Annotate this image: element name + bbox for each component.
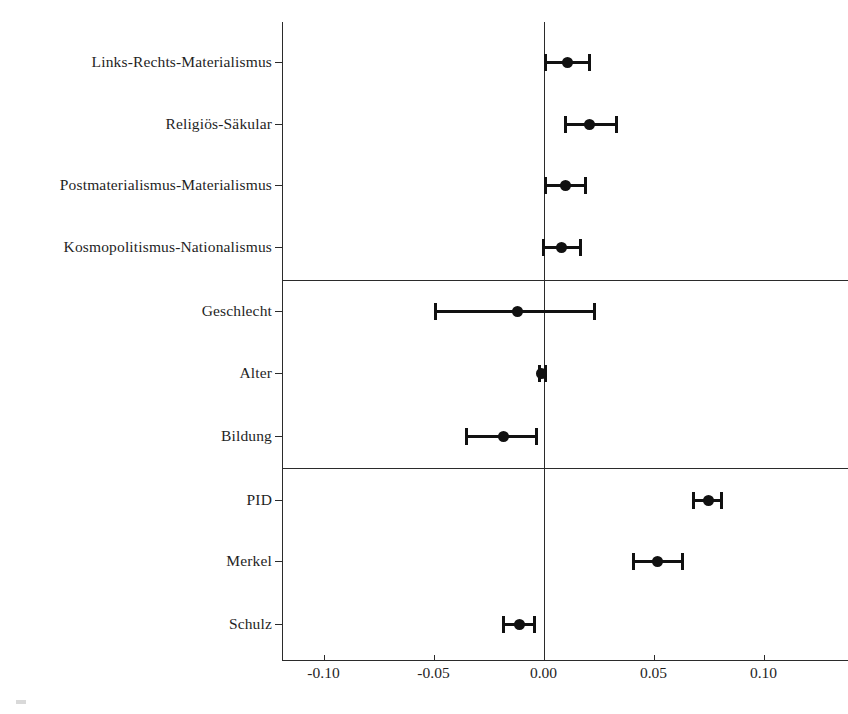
confidence-interval-cap-low	[542, 239, 545, 256]
y-axis-tick-label: Bildung	[221, 428, 272, 444]
confidence-interval-cap-low	[564, 116, 567, 133]
confidence-interval-cap-high	[615, 116, 618, 133]
y-axis-tick-mark	[275, 185, 282, 186]
y-axis-tick-label: Geschlecht	[202, 303, 272, 319]
y-axis-tick-label: Postmaterialismus-Materialismus	[60, 177, 272, 193]
confidence-interval-cap-high	[584, 177, 587, 194]
confidence-interval-cap-low	[544, 54, 547, 71]
x-axis-tick-label: 0.10	[750, 664, 777, 681]
confidence-interval-cap-high	[593, 303, 596, 320]
group-separator-line	[282, 468, 848, 469]
y-axis-tick-label: Links-Rechts-Materialismus	[92, 54, 272, 70]
y-axis-tick-label: PID	[247, 492, 272, 508]
x-axis-tick-mark	[324, 655, 325, 661]
y-axis-tick-label: Religiös-Säkular	[165, 116, 272, 132]
confidence-interval-cap-high	[720, 492, 723, 509]
y-axis-tick-mark	[275, 373, 282, 374]
coefficient-plot-figure: Links-Rechts-MaterialismusReligiös-Säkul…	[0, 0, 848, 714]
x-axis-tick-label: -0.10	[307, 664, 339, 681]
estimate-point-marker	[556, 242, 567, 253]
y-axis-tick-mark	[275, 436, 282, 437]
estimate-point-marker	[584, 119, 595, 130]
confidence-interval-cap-low	[434, 303, 437, 320]
x-axis-tick-label: -0.05	[417, 664, 449, 681]
confidence-interval-cap-high	[533, 616, 536, 633]
y-axis-tick-mark	[275, 311, 282, 312]
estimate-point-marker	[652, 556, 663, 567]
y-axis-tick-mark	[275, 62, 282, 63]
confidence-interval-cap-high	[588, 54, 591, 71]
x-axis-tick-label: 0.00	[530, 664, 557, 681]
y-axis-tick-mark	[275, 561, 282, 562]
y-axis-tick-mark	[275, 500, 282, 501]
x-axis-tick-mark	[764, 655, 765, 661]
y-axis-tick-mark	[275, 624, 282, 625]
y-axis-tick-label: Alter	[239, 365, 272, 381]
estimate-point-marker	[560, 180, 571, 191]
axis-left-spine	[282, 22, 283, 661]
confidence-interval-cap-low	[632, 553, 635, 570]
confidence-interval-cap-low	[544, 177, 547, 194]
confidence-interval-cap-high	[579, 239, 582, 256]
estimate-point-marker	[498, 431, 509, 442]
y-axis-tick-label: Kosmopolitismus-Nationalismus	[64, 239, 272, 255]
estimate-point-marker	[703, 495, 714, 506]
confidence-interval-cap-high	[535, 428, 538, 445]
confidence-interval-cap-low	[502, 616, 505, 633]
y-axis-label-group: Links-Rechts-MaterialismusReligiös-Säkul…	[0, 0, 272, 714]
estimate-point-marker	[514, 619, 525, 630]
estimate-point-marker	[536, 368, 547, 379]
estimate-point-marker	[562, 57, 573, 68]
x-axis-tick-mark	[434, 655, 435, 661]
scan-artifact	[16, 700, 26, 704]
x-axis-tick-mark	[654, 655, 655, 661]
y-axis-tick-label: Schulz	[229, 616, 272, 632]
x-axis-tick-mark	[544, 655, 545, 661]
x-axis-tick-label: 0.05	[640, 664, 667, 681]
confidence-interval-cap-low	[465, 428, 468, 445]
zero-reference-line	[544, 22, 545, 661]
estimate-point-marker	[512, 306, 523, 317]
y-axis-tick-mark	[275, 124, 282, 125]
confidence-interval-cap-high	[681, 553, 684, 570]
group-separator-line	[282, 280, 848, 281]
y-axis-tick-label: Merkel	[226, 553, 272, 569]
confidence-interval-cap-low	[692, 492, 695, 509]
y-axis-tick-mark	[275, 247, 282, 248]
